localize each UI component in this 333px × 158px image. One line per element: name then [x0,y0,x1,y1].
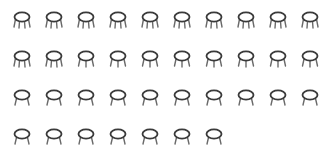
stool-icon [300,49,332,75]
stool-icon [268,88,300,114]
stool-icon [44,127,76,153]
stool-icon [76,127,108,153]
stool-icon [76,49,108,75]
stool-icon [204,10,236,36]
stool-icon [236,88,268,114]
stool-icon [12,10,44,36]
stool-icon [172,10,204,36]
stool-icon [44,49,76,75]
icon-row [12,127,236,153]
stool-icon [172,88,204,114]
stool-icon [236,10,268,36]
stool-icon [140,88,172,114]
stool-icon [268,10,300,36]
stool-icon [12,88,44,114]
stool-icon [204,127,236,153]
stool-icon [140,10,172,36]
stool-icon [76,88,108,114]
stool-icon [140,127,172,153]
icon-row [12,10,332,36]
icon-row [12,49,332,75]
stool-icon [172,49,204,75]
stool-icon-grid [0,0,333,158]
stool-icon [108,10,140,36]
stool-icon [204,88,236,114]
stool-icon [300,10,332,36]
stool-icon [76,10,108,36]
stool-icon [140,49,172,75]
stool-icon [172,127,204,153]
icon-row [12,88,332,114]
stool-icon [44,10,76,36]
stool-icon [44,88,76,114]
stool-icon [12,49,44,75]
stool-icon [268,49,300,75]
stool-icon [108,127,140,153]
stool-icon [204,49,236,75]
stool-icon [300,88,332,114]
stool-icon [12,127,44,153]
stool-icon [236,49,268,75]
stool-icon [108,49,140,75]
stool-icon [108,88,140,114]
